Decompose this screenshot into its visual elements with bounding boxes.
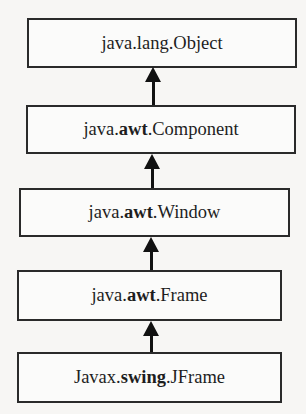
inheritance-arrow-icon xyxy=(141,321,161,353)
class-box-java-lang-object: java.lang.Object xyxy=(27,18,297,68)
inheritance-arrow-icon xyxy=(142,154,162,189)
class-label: java.awt.Component xyxy=(83,119,238,140)
class-label: java.lang.Object xyxy=(101,33,222,54)
class-box-java-awt-window: java.awt.Window xyxy=(19,188,290,237)
class-label: Javax.swing.JFrame xyxy=(74,367,225,388)
inheritance-arrow-icon xyxy=(143,67,163,105)
class-label: java.awt.Frame xyxy=(91,285,207,306)
class-box-java-awt-component: java.awt.Component xyxy=(26,105,296,154)
class-box-java-awt-frame: java.awt.Frame xyxy=(17,270,282,321)
class-box-javax-swing-jframe: Javax.swing.JFrame xyxy=(17,352,282,403)
class-label: java.awt.Window xyxy=(89,202,221,223)
inheritance-arrow-icon xyxy=(141,237,161,271)
